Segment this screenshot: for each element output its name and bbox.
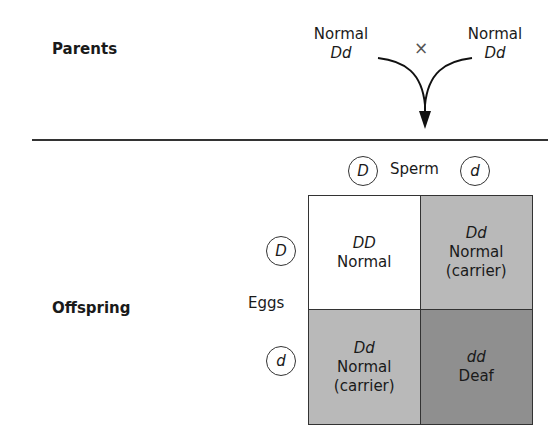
parent-left: Normal Dd <box>306 25 376 63</box>
eggs-label: Eggs <box>248 294 284 312</box>
cell-phenotype: Normal <box>337 358 391 377</box>
punnett-cell-DD: DD Normal <box>309 196 421 310</box>
cell-phenotype: Normal <box>337 253 391 272</box>
punnett-cell-dd: dd Deaf <box>421 310 533 424</box>
sperm-allele-D: D <box>348 156 378 186</box>
parent-right-phenotype: Normal <box>460 25 530 44</box>
parents-label: Parents <box>52 40 117 58</box>
punnett-cell-Dd-bottom: Dd Normal (carrier) <box>309 310 421 424</box>
section-divider <box>32 139 548 141</box>
cell-note: (carrier) <box>446 262 507 281</box>
merge-arrow-icon <box>370 55 480 135</box>
parent-left-genotype: Dd <box>306 44 376 63</box>
cell-genotype: DD <box>353 234 376 253</box>
cell-genotype: Dd <box>466 224 487 243</box>
offspring-label: Offspring <box>52 299 131 317</box>
cell-genotype: Dd <box>354 339 375 358</box>
parent-left-phenotype: Normal <box>306 25 376 44</box>
cell-phenotype: Normal <box>449 243 503 262</box>
sperm-label: Sperm <box>390 160 439 178</box>
cell-phenotype: Deaf <box>459 367 494 386</box>
egg-allele-D: D <box>266 236 296 266</box>
punnett-square: DD Normal Dd Normal (carrier) Dd Normal … <box>308 195 533 425</box>
sperm-allele-d: d <box>460 156 490 186</box>
cell-note: (carrier) <box>334 377 395 396</box>
punnett-cell-Dd-top: Dd Normal (carrier) <box>421 196 533 310</box>
cell-genotype: dd <box>467 348 486 367</box>
egg-allele-d: d <box>266 346 296 376</box>
